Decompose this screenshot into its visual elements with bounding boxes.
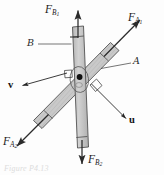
unit-vector-u xyxy=(92,84,127,119)
vector-label-u: u xyxy=(129,115,135,126)
body-label-A: A xyxy=(133,56,140,66)
body-label-B: B xyxy=(27,38,34,48)
vector-label-v: v xyxy=(8,80,13,91)
pin-joint-dot xyxy=(77,74,83,80)
force-label-FA1: FA1 xyxy=(128,12,142,26)
figure-caption: Figure P4.13 xyxy=(4,164,49,173)
force-arrow-FA2 xyxy=(17,115,49,147)
right-angle-mark-left xyxy=(65,70,73,78)
figure-container: FB1 FA1 FA2 FB2 B A v u Figure P4.13 xyxy=(0,0,164,175)
right-angle-mark-right xyxy=(90,79,102,92)
unit-vector-v xyxy=(23,73,68,86)
force-label-FB1: FB1 xyxy=(45,4,59,18)
force-label-FB2: FB2 xyxy=(88,154,102,168)
diagram-canvas xyxy=(0,0,164,175)
force-label-FA2: FA2 xyxy=(3,136,17,150)
